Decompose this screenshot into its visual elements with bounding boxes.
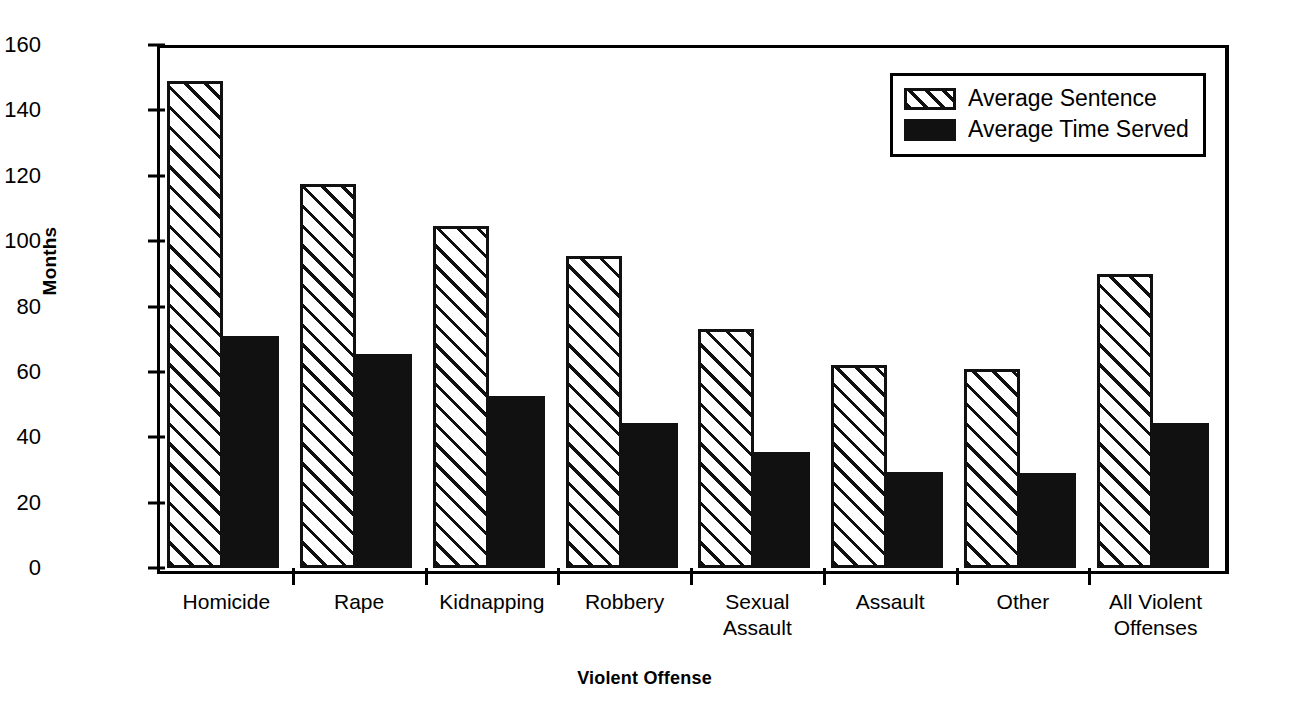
bar-average-sentence	[1097, 274, 1153, 568]
chart-legend: Average Sentence Average Time Served	[890, 73, 1206, 157]
x-axis-category-label-line: All Violent	[1066, 589, 1246, 615]
bar-average-sentence	[300, 184, 356, 568]
bar-average-sentence	[831, 365, 887, 568]
x-axis-tick-mark	[823, 568, 826, 585]
bar-average-sentence	[433, 226, 489, 568]
bar-average-time-served	[1020, 473, 1076, 568]
x-axis-tick-mark	[292, 568, 295, 585]
bar-average-sentence	[167, 81, 223, 568]
x-axis-tick-mark	[425, 568, 428, 585]
x-axis-category-label: All ViolentOffenses	[1066, 589, 1246, 642]
bar-chart-figure: Months 020406080100120140160 HomicideRap…	[0, 0, 1289, 718]
y-axis-tick-label: 0	[0, 557, 41, 579]
bar-average-time-served	[622, 423, 678, 568]
x-axis-tick-mark	[1088, 568, 1091, 585]
legend-swatch-hatched-icon	[904, 88, 956, 110]
y-axis-tick-label: 80	[0, 296, 41, 318]
bar-average-time-served	[223, 336, 279, 568]
y-axis-tick-label: 140	[0, 99, 41, 121]
y-axis-title: Months	[39, 191, 61, 331]
x-axis-tick-mark	[557, 568, 560, 585]
x-axis-tick-mark	[690, 568, 693, 585]
bar-average-time-served	[754, 452, 810, 568]
bar-average-time-served	[489, 396, 545, 568]
x-axis-category-label-line: Assault	[667, 615, 847, 641]
y-axis-tick-label: 160	[0, 34, 41, 56]
y-axis-tick-label: 100	[0, 230, 41, 252]
bar-average-time-served	[356, 354, 412, 568]
y-axis-tick-label: 20	[0, 492, 41, 514]
bar-average-sentence	[566, 256, 622, 568]
y-axis-tick-label: 60	[0, 361, 41, 383]
bar-average-time-served	[887, 472, 943, 568]
y-axis-tick-label: 120	[0, 165, 41, 187]
x-axis-category-label-line: Offenses	[1066, 615, 1246, 641]
legend-label-average-time-served: Average Time Served	[968, 116, 1189, 143]
bar-average-sentence	[698, 329, 754, 568]
x-axis-tick-mark	[956, 568, 959, 585]
bar-average-sentence	[964, 369, 1020, 568]
legend-item-average-time-served: Average Time Served	[904, 114, 1189, 145]
legend-item-average-sentence: Average Sentence	[904, 83, 1189, 114]
legend-label-average-sentence: Average Sentence	[968, 85, 1157, 112]
y-axis-tick-label: 40	[0, 426, 41, 448]
bar-average-time-served	[1153, 423, 1209, 568]
legend-swatch-solid-icon	[904, 119, 956, 141]
x-axis-title: Violent Offense	[0, 668, 1289, 689]
